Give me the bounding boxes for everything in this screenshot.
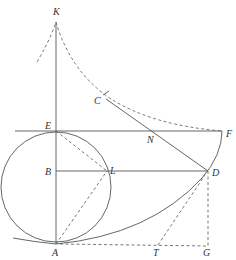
label-G: G [203, 247, 210, 258]
label-F: F [225, 128, 233, 139]
dashed-EL [56, 131, 107, 171]
label-E: E [44, 120, 51, 131]
dashed-AL [56, 171, 107, 244]
dashed-curve-right [56, 22, 222, 131]
label-T: T [153, 247, 160, 258]
geometry-diagram: K C E N F B L D A T G [0, 0, 236, 260]
label-C: C [94, 95, 101, 106]
dashed-AG [60, 244, 208, 246]
label-K: K [52, 6, 61, 17]
dashed-curve-left [37, 22, 56, 62]
label-N: N [146, 134, 155, 145]
line-CD [106, 99, 208, 171]
curve-ADF [13, 131, 222, 244]
label-L: L [109, 165, 116, 176]
label-D: D [211, 167, 220, 178]
label-A: A [51, 247, 59, 258]
dashed-TD [158, 175, 205, 245]
label-B: B [45, 166, 51, 177]
